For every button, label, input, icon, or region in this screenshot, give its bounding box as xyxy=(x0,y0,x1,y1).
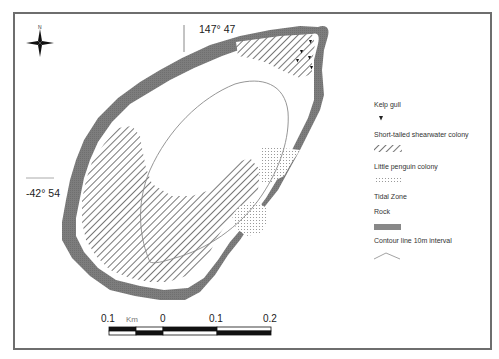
scale-tick-2: 0.1 xyxy=(209,313,223,324)
legend-penguin-swatch xyxy=(374,176,402,182)
legend-penguin-label: Little penguin colony xyxy=(374,163,438,170)
scale-tick-0: 0.1 xyxy=(101,313,115,324)
scale-tick-3: 0.2 xyxy=(263,313,277,324)
legend-contour-icon xyxy=(374,253,400,259)
legend-kelp-gull-label: Kelp gull xyxy=(374,101,401,108)
scale-unit: Km xyxy=(126,315,138,324)
island-map xyxy=(0,0,499,359)
legend-rock-label: Rock xyxy=(374,208,390,215)
legend-shearwater-label: Short-tailed shearwater colony xyxy=(374,131,469,138)
longitude-label: 147° 47 xyxy=(199,23,235,35)
latitude-label: -42° 54 xyxy=(26,187,60,199)
scale-bar xyxy=(109,327,271,335)
north-arrow-icon xyxy=(26,29,54,57)
legend-rock-swatch xyxy=(374,224,401,230)
legend-contour-label: Contour line 10m interval xyxy=(374,237,452,244)
legend-kelp-gull-icon xyxy=(379,116,383,121)
legend-shearwater-swatch xyxy=(374,145,402,152)
scale-tick-1: 0 xyxy=(160,313,166,324)
north-label: N xyxy=(38,24,42,30)
legend-tidal-zone-label: Tidal Zone xyxy=(374,193,407,200)
